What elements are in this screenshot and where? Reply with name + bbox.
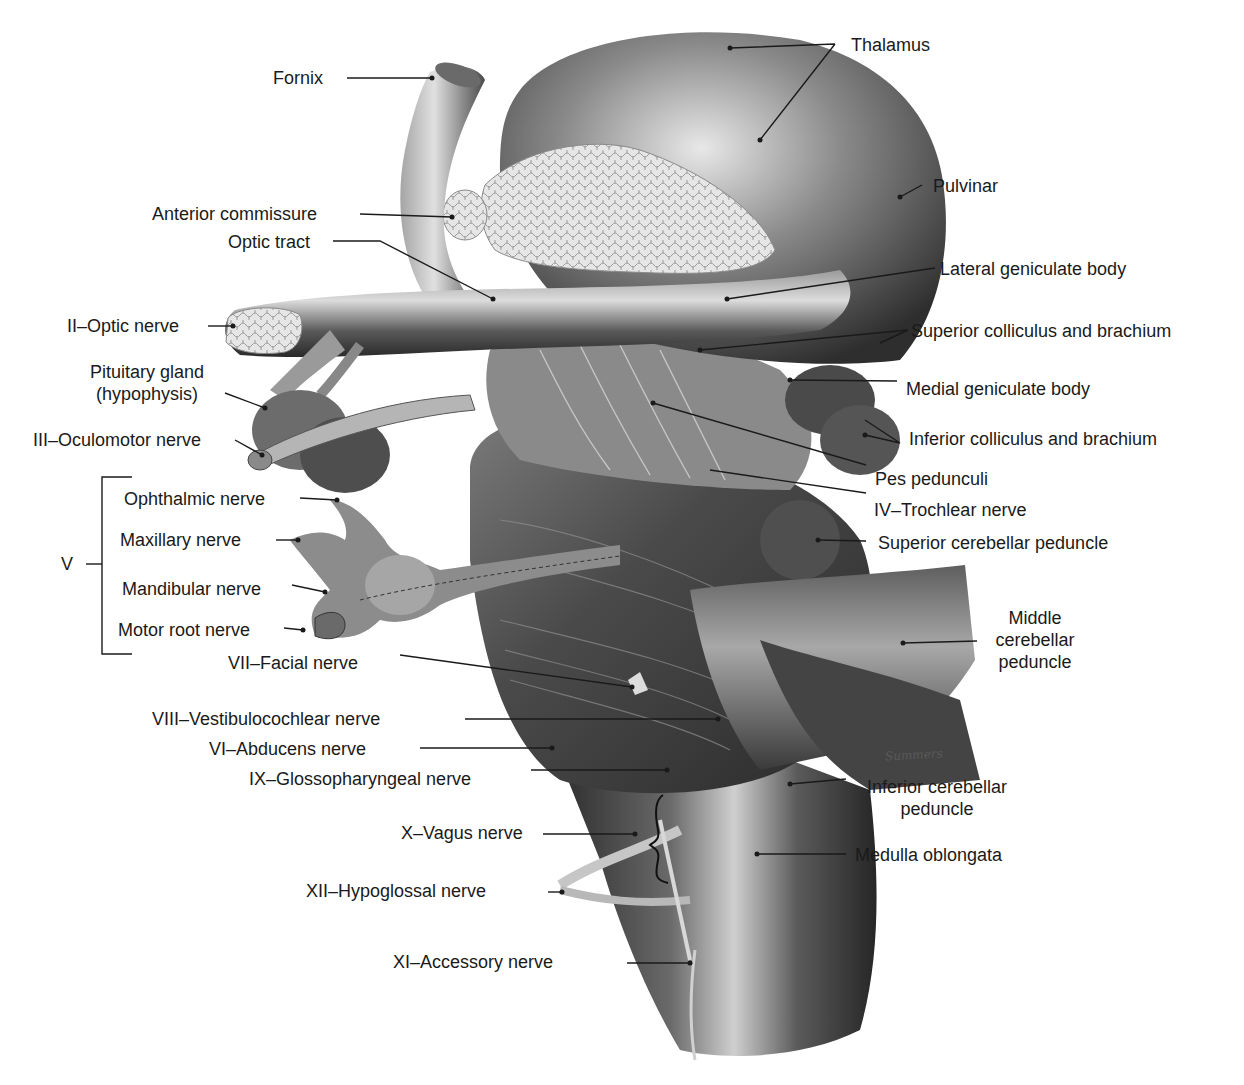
label-superior-cerebellar-peduncle: Superior cerebellar peduncle xyxy=(878,532,1108,554)
label-anterior-commissure: Anterior commissure xyxy=(152,203,317,225)
label-motor-root-nerve: Motor root nerve xyxy=(118,619,250,641)
label-inferior-cp-line1: Inferior cerebellar xyxy=(852,776,1022,798)
label-middle-cerebellar-peduncle: Middle cerebellar peduncle xyxy=(985,607,1085,673)
label-lateral-geniculate-body: Lateral geniculate body xyxy=(940,258,1126,280)
label-pituitary-gland: Pituitary gland (hypophysis) xyxy=(72,361,222,405)
label-pulvinar: Pulvinar xyxy=(933,175,998,197)
brainstem-diagram: Summers Thalamus Pulvinar Lateral genicu… xyxy=(0,0,1244,1085)
label-medulla-oblongata: Medulla oblongata xyxy=(855,844,1002,866)
artist-signature: Summers xyxy=(885,746,943,763)
label-hypoglossal-nerve: XII–Hypoglossal nerve xyxy=(306,880,486,902)
label-mandibular-nerve: Mandibular nerve xyxy=(122,578,261,600)
label-middle-cp-line3: peduncle xyxy=(985,651,1085,673)
label-trigeminal-group: V xyxy=(61,553,73,575)
label-oculomotor-nerve: III–Oculomotor nerve xyxy=(33,429,201,451)
label-accessory-nerve: XI–Accessory nerve xyxy=(393,951,553,973)
label-vestibulocochlear-nerve: VIII–Vestibulocochlear nerve xyxy=(152,708,380,730)
label-maxillary-nerve: Maxillary nerve xyxy=(120,529,241,551)
label-glossopharyngeal-nerve: IX–Glossopharyngeal nerve xyxy=(249,768,471,790)
label-trochlear-nerve: IV–Trochlear nerve xyxy=(874,499,1026,521)
label-abducens-nerve: VI–Abducens nerve xyxy=(209,738,366,760)
label-pituitary-line1: Pituitary gland xyxy=(72,361,222,383)
label-vagus-nerve: X–Vagus nerve xyxy=(401,822,523,844)
label-thalamus: Thalamus xyxy=(851,34,930,56)
label-optic-nerve: II–Optic nerve xyxy=(67,315,179,337)
label-medial-geniculate-body: Medial geniculate body xyxy=(906,378,1090,400)
label-inferior-colliculus: Inferior colliculus and brachium xyxy=(909,428,1157,450)
label-pituitary-line2: (hypophysis) xyxy=(72,383,222,405)
label-middle-cp-line2: cerebellar xyxy=(985,629,1085,651)
label-middle-cp-line1: Middle xyxy=(985,607,1085,629)
label-ophthalmic-nerve: Ophthalmic nerve xyxy=(124,488,265,510)
label-facial-nerve: VII–Facial nerve xyxy=(228,652,358,674)
label-optic-tract: Optic tract xyxy=(228,231,310,253)
label-fornix: Fornix xyxy=(273,67,323,89)
label-inferior-cp-line2: peduncle xyxy=(852,798,1022,820)
label-pes-pedunculi: Pes pedunculi xyxy=(875,468,988,490)
label-inferior-cerebellar-peduncle: Inferior cerebellar peduncle xyxy=(852,776,1022,820)
label-superior-colliculus: Superior colliculus and brachium xyxy=(911,320,1171,342)
